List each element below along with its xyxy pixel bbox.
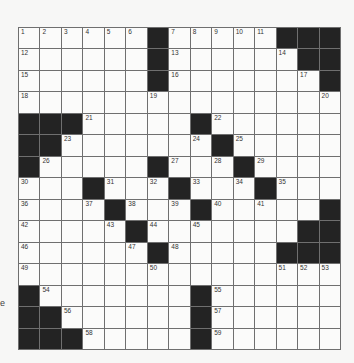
grid-cell[interactable] [255, 114, 275, 134]
grid-cell[interactable]: 30 [19, 178, 39, 198]
grid-cell[interactable] [126, 307, 146, 327]
grid-cell[interactable] [148, 114, 168, 134]
grid-cell[interactable] [40, 264, 60, 284]
grid-cell[interactable] [62, 92, 82, 112]
grid-cell[interactable]: 13 [169, 49, 189, 69]
grid-cell[interactable] [320, 286, 340, 306]
grid-cell[interactable] [320, 157, 340, 177]
grid-cell[interactable] [148, 286, 168, 306]
grid-cell[interactable]: 28 [212, 157, 232, 177]
grid-cell[interactable] [126, 49, 146, 69]
grid-cell[interactable] [83, 135, 103, 155]
grid-cell[interactable] [83, 243, 103, 263]
grid-cell[interactable]: 16 [169, 71, 189, 91]
grid-cell[interactable]: 46 [19, 243, 39, 263]
grid-cell[interactable] [298, 157, 318, 177]
grid-cell[interactable]: 11 [255, 28, 275, 48]
grid-cell[interactable] [320, 178, 340, 198]
grid-cell[interactable]: 17 [298, 71, 318, 91]
grid-cell[interactable] [277, 114, 297, 134]
grid-cell[interactable] [191, 49, 211, 69]
grid-cell[interactable] [277, 200, 297, 220]
grid-cell[interactable] [105, 92, 125, 112]
grid-cell[interactable] [212, 92, 232, 112]
grid-cell[interactable] [83, 264, 103, 284]
grid-cell[interactable] [148, 307, 168, 327]
grid-cell[interactable] [40, 243, 60, 263]
grid-cell[interactable]: 52 [298, 264, 318, 284]
grid-cell[interactable]: 14 [277, 49, 297, 69]
grid-cell[interactable] [62, 71, 82, 91]
grid-cell[interactable]: 44 [148, 221, 168, 241]
grid-cell[interactable] [234, 92, 254, 112]
grid-cell[interactable] [277, 135, 297, 155]
grid-cell[interactable]: 49 [19, 264, 39, 284]
grid-cell[interactable]: 31 [105, 178, 125, 198]
grid-cell[interactable]: 34 [234, 178, 254, 198]
grid-cell[interactable]: 39 [169, 200, 189, 220]
grid-cell[interactable] [126, 178, 146, 198]
grid-cell[interactable] [234, 71, 254, 91]
grid-cell[interactable] [105, 49, 125, 69]
grid-cell[interactable] [62, 178, 82, 198]
grid-cell[interactable]: 41 [255, 200, 275, 220]
grid-cell[interactable] [255, 264, 275, 284]
grid-cell[interactable] [83, 286, 103, 306]
grid-cell[interactable]: 56 [62, 307, 82, 327]
grid-cell[interactable] [148, 200, 168, 220]
grid-cell[interactable]: 50 [148, 264, 168, 284]
grid-cell[interactable] [105, 286, 125, 306]
grid-cell[interactable]: 53 [320, 264, 340, 284]
grid-cell[interactable]: 5 [105, 28, 125, 48]
grid-cell[interactable] [298, 286, 318, 306]
grid-cell[interactable] [191, 264, 211, 284]
grid-cell[interactable] [298, 329, 318, 349]
grid-cell[interactable] [105, 243, 125, 263]
grid-cell[interactable] [126, 135, 146, 155]
grid-cell[interactable] [126, 114, 146, 134]
grid-cell[interactable]: 18 [19, 92, 39, 112]
grid-cell[interactable]: 55 [212, 286, 232, 306]
grid-cell[interactable] [105, 135, 125, 155]
grid-cell[interactable] [40, 92, 60, 112]
grid-cell[interactable]: 45 [191, 221, 211, 241]
grid-cell[interactable] [212, 71, 232, 91]
grid-cell[interactable] [234, 200, 254, 220]
grid-cell[interactable] [191, 92, 211, 112]
grid-cell[interactable] [212, 178, 232, 198]
grid-cell[interactable] [234, 307, 254, 327]
grid-cell[interactable] [191, 71, 211, 91]
grid-cell[interactable] [148, 329, 168, 349]
grid-cell[interactable] [212, 49, 232, 69]
grid-cell[interactable]: 7 [169, 28, 189, 48]
grid-cell[interactable] [234, 49, 254, 69]
grid-cell[interactable]: 54 [40, 286, 60, 306]
grid-cell[interactable]: 26 [40, 157, 60, 177]
grid-cell[interactable] [320, 114, 340, 134]
grid-cell[interactable]: 48 [169, 243, 189, 263]
grid-cell[interactable] [105, 307, 125, 327]
grid-cell[interactable]: 21 [83, 114, 103, 134]
grid-cell[interactable] [40, 49, 60, 69]
grid-cell[interactable] [40, 71, 60, 91]
grid-cell[interactable]: 1 [19, 28, 39, 48]
grid-cell[interactable] [255, 92, 275, 112]
grid-cell[interactable] [169, 114, 189, 134]
grid-cell[interactable] [255, 71, 275, 91]
grid-cell[interactable]: 35 [277, 178, 297, 198]
grid-cell[interactable]: 25 [234, 135, 254, 155]
grid-cell[interactable] [62, 264, 82, 284]
grid-cell[interactable] [255, 307, 275, 327]
grid-cell[interactable]: 19 [148, 92, 168, 112]
grid-cell[interactable] [105, 329, 125, 349]
grid-cell[interactable] [83, 71, 103, 91]
grid-cell[interactable] [255, 135, 275, 155]
grid-cell[interactable] [298, 92, 318, 112]
grid-cell[interactable] [298, 178, 318, 198]
grid-cell[interactable] [255, 243, 275, 263]
grid-cell[interactable] [169, 286, 189, 306]
grid-cell[interactable] [62, 157, 82, 177]
grid-cell[interactable] [277, 92, 297, 112]
grid-cell[interactable]: 22 [212, 114, 232, 134]
grid-cell[interactable]: 3 [62, 28, 82, 48]
